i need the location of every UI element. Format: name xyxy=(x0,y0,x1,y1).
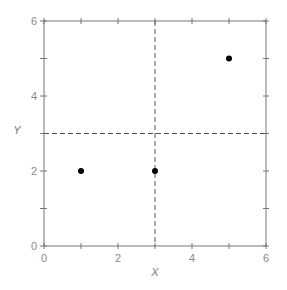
y-tick-label: 4 xyxy=(31,90,37,102)
x-tick-label: 2 xyxy=(115,252,121,264)
data-point xyxy=(78,168,84,174)
y-tick-label: 0 xyxy=(31,240,37,252)
y-tick-label: 6 xyxy=(31,15,37,27)
y-axis-label: Y xyxy=(13,124,21,136)
x-tick-label: 0 xyxy=(41,252,47,264)
x-tick-label: 4 xyxy=(189,252,195,264)
data-point xyxy=(152,168,158,174)
tick-labels: 02460246 xyxy=(31,15,269,264)
x-axis-label: X xyxy=(150,266,159,278)
reference-lines xyxy=(44,21,266,246)
data-point xyxy=(226,56,232,62)
scatter-chart: 02460246 X Y xyxy=(0,0,287,290)
y-tick-label: 2 xyxy=(31,165,37,177)
x-tick-label: 6 xyxy=(263,252,269,264)
